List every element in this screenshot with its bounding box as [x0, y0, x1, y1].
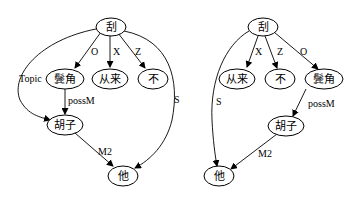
- svg-text:胡子: 胡子: [54, 118, 76, 132]
- right-tree: X Z O S possM M2 刮 从来 不 鬓角 胡子 他: [204, 18, 343, 186]
- svg-text:从来: 从来: [226, 73, 248, 86]
- edge-gua-bu: [265, 36, 277, 68]
- node-huzi: 胡子: [47, 115, 83, 135]
- node-conglai: 从来: [92, 69, 128, 89]
- svg-text:他: 他: [214, 170, 225, 183]
- svg-text:鬓角: 鬓角: [313, 73, 335, 86]
- node-gua: 刮: [248, 18, 278, 36]
- edge-label: S: [174, 94, 180, 105]
- node-binjiao: 鬓角: [305, 69, 343, 89]
- edge-label: O: [91, 46, 98, 57]
- node-ta: 他: [108, 166, 138, 186]
- node-conglai: 从来: [219, 69, 255, 89]
- edge-label: Topic: [19, 73, 42, 84]
- svg-text:他: 他: [118, 170, 129, 183]
- node-huzi: 胡子: [268, 116, 304, 136]
- edge-binjiao-huzi: [293, 89, 306, 116]
- edge-label: Z: [135, 46, 141, 57]
- edge-label: M2: [258, 148, 272, 159]
- edge-label: S: [216, 96, 222, 107]
- svg-text:鬓角: 鬓角: [54, 73, 76, 86]
- node-bu: 不: [265, 69, 295, 89]
- edge-gua-ta: [124, 31, 174, 168]
- dependency-diagrams: O X Z Topic S possM M2 刮 鬓角 从来 不 胡子 他: [0, 0, 361, 202]
- edge-label: Z: [277, 46, 283, 57]
- svg-text:不: 不: [148, 73, 159, 86]
- node-ta: 他: [204, 166, 234, 186]
- edge-label: M2: [98, 146, 112, 157]
- edge-label: possM: [68, 95, 95, 106]
- edge-label: X: [113, 46, 121, 57]
- node-bu: 不: [138, 69, 168, 89]
- svg-text:从来: 从来: [99, 73, 121, 86]
- node-binjiao: 鬓角: [46, 69, 84, 89]
- svg-text:胡子: 胡子: [275, 119, 297, 133]
- svg-text:刮: 刮: [106, 20, 117, 34]
- edge-label: O: [300, 46, 307, 57]
- svg-text:刮: 刮: [258, 20, 269, 34]
- left-tree: O X Z Topic S possM M2 刮 鬓角 从来 不 胡子 他: [18, 18, 179, 186]
- edge-label: X: [255, 46, 263, 57]
- node-gua: 刮: [96, 18, 126, 36]
- edge-label: possM: [308, 98, 335, 109]
- svg-text:不: 不: [275, 73, 286, 86]
